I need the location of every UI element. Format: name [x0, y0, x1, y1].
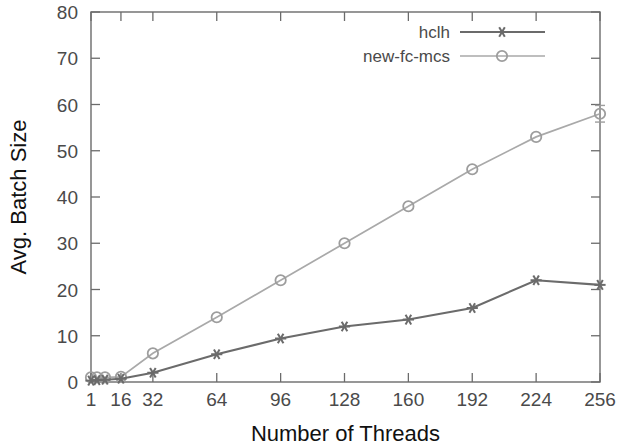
chart-svg: 0102030405060708011632649612816019222425…	[0, 0, 621, 447]
y-tick-label: 30	[57, 233, 78, 254]
x-tick-label: 1	[86, 389, 97, 410]
x-tick-label: 64	[206, 389, 228, 410]
x-tick-label: 256	[584, 389, 616, 410]
x-tick-label: 96	[270, 389, 291, 410]
series-new-fc-mcs	[86, 105, 605, 382]
y-tick-label: 80	[57, 2, 78, 23]
y-axis-title: Avg. Batch Size	[6, 120, 31, 275]
chart-figure: 0102030405060708011632649612816019222425…	[0, 0, 621, 447]
series-hclh	[85, 275, 605, 385]
y-tick-label: 70	[57, 48, 78, 69]
x-tick-label: 32	[142, 389, 163, 410]
x-tick-label: 192	[456, 389, 488, 410]
x-tick-label: 160	[393, 389, 425, 410]
legend-label-new-fc-mcs: new-fc-mcs	[363, 47, 450, 66]
series-line-new-fc-mcs	[91, 114, 600, 378]
x-tick-label: 224	[520, 389, 552, 410]
y-tick-label: 20	[57, 280, 78, 301]
x-tick-label: 128	[329, 389, 361, 410]
series-line-hclh	[91, 280, 600, 380]
y-tick-label: 40	[57, 187, 78, 208]
chart-legend: hclhnew-fc-mcs	[363, 23, 545, 66]
legend-label-hclh: hclh	[419, 23, 450, 42]
y-tick-label: 60	[57, 95, 78, 116]
y-tick-label: 0	[67, 372, 78, 393]
x-tick-label: 16	[110, 389, 131, 410]
y-tick-label: 50	[57, 141, 78, 162]
x-axis-title: Number of Threads	[251, 421, 440, 446]
y-tick-label: 10	[57, 326, 78, 347]
